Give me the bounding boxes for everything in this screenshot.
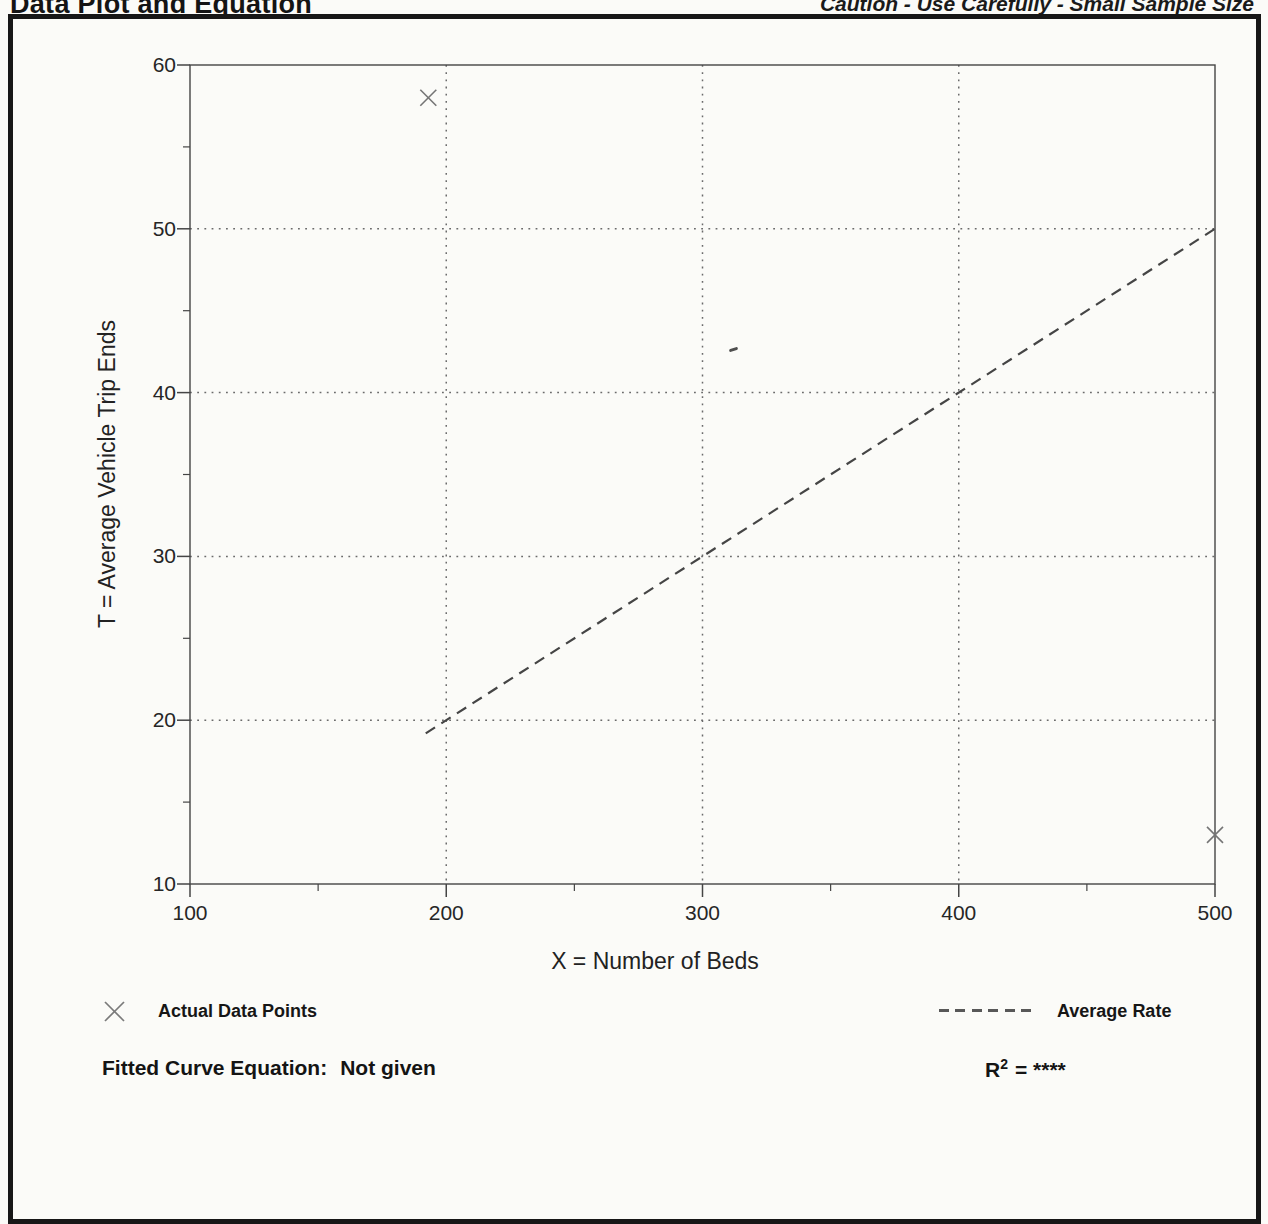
dashed-line-icon bbox=[939, 1009, 1037, 1012]
x-marker-icon bbox=[101, 997, 129, 1025]
legend-average-rate-label: Average Rate bbox=[1057, 1001, 1171, 1022]
r-squared-rest: = **** bbox=[1015, 1058, 1066, 1081]
equation-label: Fitted Curve Equation: bbox=[102, 1056, 327, 1079]
r-squared-exponent: 2 bbox=[1000, 1056, 1008, 1072]
legend-actual-data-points-label: Actual Data Points bbox=[158, 1001, 317, 1022]
equation-value: Not given bbox=[340, 1056, 436, 1079]
x-axis-label: X = Number of Beds bbox=[551, 948, 759, 975]
plot-area bbox=[190, 65, 1215, 884]
average-rate-line bbox=[426, 229, 1215, 734]
y-axis-label: T = Average Vehicle Trip Ends bbox=[94, 320, 121, 628]
r-squared-base: R bbox=[985, 1058, 1000, 1081]
r-squared-value: R2= **** bbox=[985, 1056, 1066, 1082]
fitted-curve-equation: Fitted Curve Equation:Not given bbox=[102, 1056, 436, 1080]
